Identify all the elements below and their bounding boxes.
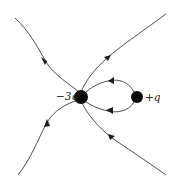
field-line-upper-left bbox=[15, 18, 80, 93]
field-line-lower-right bbox=[82, 103, 166, 175]
label-positive-charge: +q bbox=[145, 92, 161, 103]
charge-positive-q bbox=[131, 91, 143, 103]
field-line-upper-right bbox=[81, 14, 166, 92]
field-line-lower-left bbox=[18, 100, 78, 175]
field-line-loop-top bbox=[85, 80, 134, 93]
arrow-loop-top-icon bbox=[108, 77, 114, 84]
arrow-lower-left-icon bbox=[44, 119, 50, 127]
arrow-loop-bottom-icon bbox=[106, 107, 113, 114]
label-negative-charge: −3q bbox=[56, 91, 78, 102]
